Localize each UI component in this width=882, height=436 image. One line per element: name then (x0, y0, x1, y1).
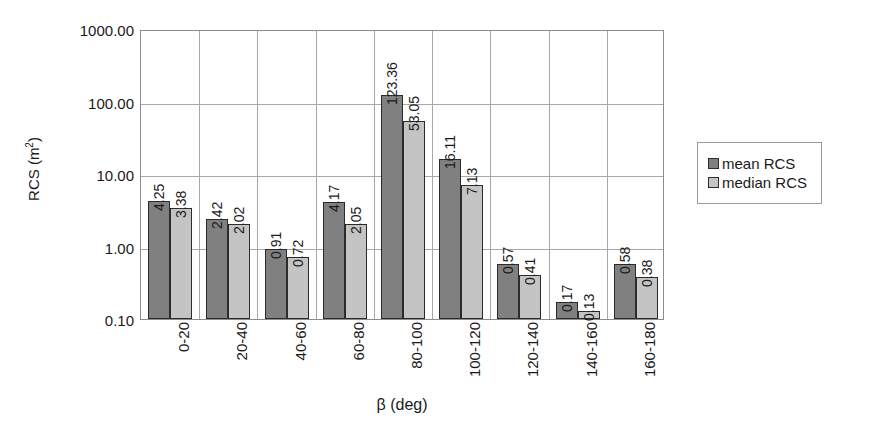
bar-group: 0.580.38 (607, 31, 665, 319)
bar-value-label-mean: 4.17 (327, 184, 341, 211)
legend-swatch-mean-icon (708, 158, 719, 169)
bar-value-label-median: 53.05 (407, 96, 421, 131)
bar-mean-rcs[interactable] (381, 95, 403, 319)
bar-value-label-mean: 123.36 (385, 62, 399, 105)
x-axis-tick-label: 120-140 (525, 322, 540, 377)
bar-value-label-median: 7.13 (465, 167, 479, 194)
y-axis-tick-label: 1000.00 (56, 23, 134, 38)
legend-label-median: median RCS (722, 175, 807, 190)
bar-median-rcs[interactable] (461, 185, 483, 319)
bar-value-label-mean: 0.91 (269, 232, 283, 259)
bar-median-rcs[interactable] (228, 224, 250, 319)
bar-value-label-median: 2.05 (349, 207, 363, 234)
y-axis-tick-labels: 1000.00100.0010.001.000.10 (52, 0, 134, 436)
bar-value-label-mean: 16.11 (443, 135, 457, 169)
bar-value-label-median: 0.72 (291, 240, 305, 267)
bar-value-label-mean: 0.17 (560, 285, 574, 312)
bar-group: 123.3653.05 (374, 31, 432, 319)
bar-mean-rcs[interactable] (206, 219, 228, 319)
bar-group: 0.570.41 (490, 31, 548, 319)
y-axis-title: RCS (m2) (24, 109, 42, 229)
bar-mean-rcs[interactable] (265, 249, 287, 319)
legend-swatch-median-icon (708, 177, 719, 188)
bar-value-label-mean: 4.25 (152, 184, 166, 211)
bar-median-rcs[interactable] (403, 121, 425, 319)
x-axis-tick-label: 140-160 (584, 322, 599, 377)
y-axis-title-paren: ) (25, 137, 42, 142)
x-axis-tick-label: 0-20 (176, 322, 191, 352)
bar-group: 16.117.13 (432, 31, 490, 319)
x-axis-tick-label: 100-120 (467, 322, 482, 377)
bar-median-rcs[interactable] (170, 208, 192, 319)
bar-value-label-median: 3.38 (174, 191, 188, 218)
y-axis-title-text: RCS (m (25, 148, 42, 201)
x-axis-tick-label: 160-180 (642, 322, 657, 377)
bar-median-rcs[interactable] (345, 224, 367, 319)
bar-value-label-mean: 2.42 (210, 201, 224, 228)
bar-mean-rcs[interactable] (148, 201, 170, 319)
x-axis-tick-label: 20-40 (234, 322, 249, 360)
x-axis-tick-labels: 0-2020-4040-6060-8080-100100-120120-1401… (140, 322, 664, 392)
bar-group: 2.422.02 (199, 31, 257, 319)
bar-value-label-median: 2.02 (232, 207, 246, 234)
bar-value-label-median: 0.13 (582, 293, 596, 320)
y-axis-title-exponent: 2 (24, 142, 35, 148)
x-axis-tick-label: 60-80 (351, 322, 366, 360)
legend-label-mean: mean RCS (722, 156, 795, 171)
bar-value-label-mean: 0.57 (501, 247, 515, 274)
x-axis-tick-label: 40-60 (293, 322, 308, 360)
bar-group: 0.170.13 (549, 31, 607, 319)
bar-mean-rcs[interactable] (323, 202, 345, 319)
bar-value-label-median: 0.41 (523, 257, 537, 284)
bar-group: 4.172.05 (316, 31, 374, 319)
rcs-bar-chart: RCS (m2) 1000.00100.0010.001.000.10 4.25… (0, 0, 882, 436)
x-axis-tick-label: 80-100 (409, 322, 424, 369)
y-axis-tick-label: 1.00 (56, 240, 134, 255)
x-axis-title: β (deg) (140, 396, 664, 414)
chart-legend: mean RCS median RCS (697, 142, 822, 204)
plot-area: 4.253.382.422.020.910.724.172.05123.3653… (140, 30, 664, 320)
bar-value-label-median: 0.38 (640, 260, 654, 287)
bar-group: 4.253.38 (141, 31, 199, 319)
bar-group: 0.910.72 (257, 31, 315, 319)
y-axis-tick-label: 10.00 (56, 168, 134, 183)
legend-item-mean[interactable]: mean RCS (708, 156, 807, 171)
bar-mean-rcs[interactable] (439, 159, 461, 319)
bar-value-label-mean: 0.58 (618, 246, 632, 273)
y-axis-tick-label: 0.10 (56, 313, 134, 328)
y-axis-tick-label: 100.00 (56, 95, 134, 110)
legend-item-median[interactable]: median RCS (708, 175, 807, 190)
